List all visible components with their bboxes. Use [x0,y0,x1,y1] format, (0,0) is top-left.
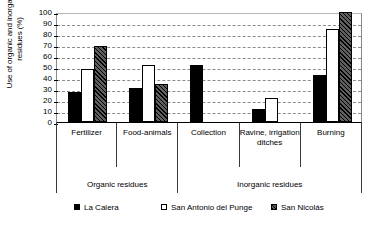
plot-area [56,13,362,123]
bar [326,29,339,123]
bar [339,12,352,122]
group-label: Inorganic residues [178,167,362,193]
bar [142,65,155,122]
legend-swatch-icon [74,204,80,210]
legend-label: San Nicolás [281,203,324,212]
bar [155,84,168,123]
bar-group [57,14,118,122]
category-label: Burning [301,123,362,167]
bar [313,75,326,122]
chart-legend: La CaleraSan Antonio del PungeSan Nicolá… [56,200,362,214]
group-label: Organic residues [56,167,178,193]
bar [94,46,107,122]
category-axis: FertilizerFood-animalsCollectionRavine, … [56,123,362,167]
bar [265,98,278,122]
group-axis: Organic residuesInorganic residues [56,167,362,193]
category-label: Ravine, irrigation ditches [240,123,301,167]
legend-label: La Calera [84,203,119,212]
category-label: Collection [178,123,239,167]
y-tick-label: 100 [28,9,52,17]
y-tick-label: 20 [28,97,52,105]
bar-group [241,14,302,122]
y-tick-label: 60 [28,53,52,61]
bar [190,65,203,122]
legend-item[interactable]: San Antonio del Punge [161,203,252,212]
y-tick-label: 70 [28,42,52,50]
category-label: Fertilizer [56,123,117,167]
legend-item[interactable]: La Calera [74,203,119,212]
bar-group [302,14,363,122]
y-tick-label: 0 [28,119,52,127]
legend-swatch-icon [271,204,277,210]
y-tick-label: 90 [28,20,52,28]
legend-swatch-icon [161,204,167,210]
legend-item[interactable]: San Nicolás [271,203,324,212]
bar [252,109,265,122]
bar [81,69,94,122]
category-label: Food-animals [117,123,178,167]
bar-group [118,14,179,122]
legend-label: San Antonio del Punge [171,203,252,212]
bar-group [179,14,240,122]
bar-chart-figure: Use of organic and inorganic residues (%… [0,0,373,230]
y-tick-label: 30 [28,86,52,94]
y-tick-label: 40 [28,75,52,83]
bar [129,88,142,122]
bar [68,92,81,122]
y-tick-label: 50 [28,64,52,72]
y-tick-label: 80 [28,31,52,39]
y-tick-label: 10 [28,108,52,116]
